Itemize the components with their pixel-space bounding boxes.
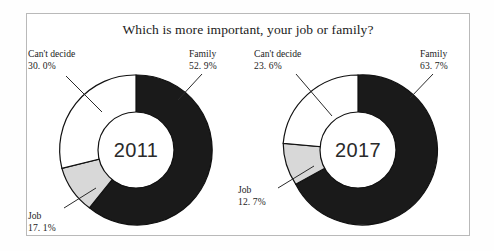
figure-container: Which is more important, your job or fam… (0, 0, 494, 251)
page-title: Which is more important, your job or fam… (26, 22, 470, 38)
label-2011-job-value: 17. 1% (28, 222, 56, 234)
donut-2011-year-label: 2011 (114, 139, 159, 161)
label-2011-job-name: Job (28, 210, 41, 221)
label-2011-cant-decide-value: 30. 0% (28, 60, 75, 72)
label-2017-family: Family 63. 7% (420, 48, 448, 71)
label-2017-cant-decide-value: 23. 6% (254, 60, 301, 72)
label-2017-cant-decide: Can't decide 23. 6% (254, 48, 301, 71)
label-2017-job-name: Job (238, 184, 251, 195)
donut-chart-2017: 2017 Can't decide 23. 6% Family 63. 7% J… (248, 40, 470, 236)
label-2017-family-name: Family (420, 48, 447, 59)
label-2017-job-value: 12. 7% (238, 196, 266, 208)
label-2011-cant-decide-name: Can't decide (28, 48, 75, 59)
label-2017-job: Job 12. 7% (238, 184, 266, 207)
donut-chart-2011: 2011 Can't decide 30. 0% Family 52. 9% J… (26, 40, 248, 236)
label-2017-cant-decide-name: Can't decide (254, 48, 301, 59)
label-2017-family-value: 63. 7% (420, 60, 448, 72)
donut-2017-year-label: 2017 (335, 139, 381, 161)
label-2011-family: Family 52. 9% (189, 48, 217, 71)
leader-line-2017-family (410, 74, 433, 98)
label-2011-cant-decide: Can't decide 30. 0% (28, 48, 75, 71)
label-2011-job: Job 17. 1% (28, 210, 56, 233)
label-2011-family-value: 52. 9% (189, 60, 217, 72)
label-2011-family-name: Family (189, 48, 216, 59)
